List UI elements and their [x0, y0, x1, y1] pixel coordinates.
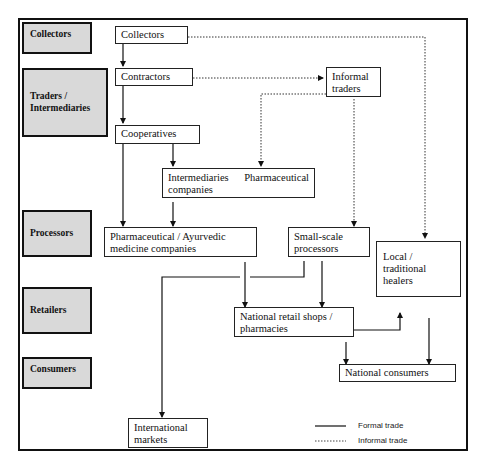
word-intermediaries: Intermediaries — [168, 172, 229, 184]
node-contractors: Contractors — [115, 68, 193, 86]
legend-formal-label: Formal trade — [358, 421, 403, 430]
node-national-consumers: National consumers — [339, 364, 456, 382]
node-international-markets: International markets — [128, 418, 208, 448]
word-pharmaceutical: Pharmaceutical — [244, 172, 309, 184]
stage-label: Processors — [30, 228, 73, 240]
node-collectors: Collectors — [115, 26, 188, 44]
node-cooperatives: Cooperatives — [115, 125, 200, 144]
stage-consumers: Consumers — [22, 357, 92, 389]
stage-collectors: Collectors — [22, 22, 92, 54]
stage-label: Collectors — [30, 29, 71, 39]
stage-processors: Processors — [22, 210, 92, 257]
node-intermediaries-pharmaceutical: Intermediaries Pharmaceutical companies — [162, 168, 315, 198]
node-pharma-ayurvedic: Pharmaceutical / Ayurvedic medicine comp… — [104, 227, 257, 257]
stage-label: Traders / Intermediaries — [30, 91, 100, 115]
stage-label: Retailers — [30, 305, 66, 317]
node-small-scale-processors: Small-scale processors — [288, 227, 370, 257]
node-local-healers: Local / traditional healers — [376, 241, 461, 297]
node-informal-traders: Informal traders — [326, 67, 381, 97]
stage-retailers: Retailers — [22, 287, 92, 334]
legend-informal-label: Informal trade — [358, 436, 407, 445]
node-national-retail: National retail shops / pharmacies — [234, 307, 354, 337]
stage-label: Consumers — [30, 364, 76, 374]
stage-traders: Traders / Intermediaries — [22, 68, 108, 137]
word-companies: companies — [168, 184, 213, 195]
